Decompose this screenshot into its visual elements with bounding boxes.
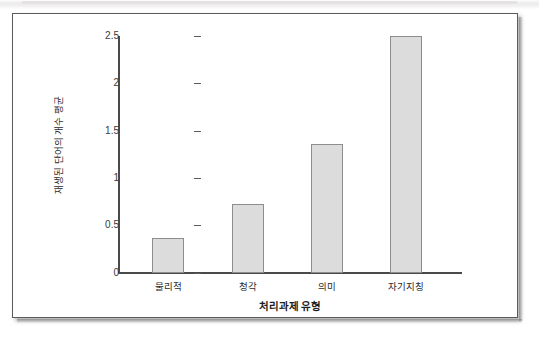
x-tick-label-3: 자기지칭 [366, 279, 446, 293]
y-axis-line [118, 36, 120, 274]
bar-1[interactable] [232, 204, 264, 273]
y-tick-0: 0 [82, 273, 119, 274]
y-tick-2: 1 [82, 178, 119, 179]
y-tick-label-3: 1.5 [93, 126, 119, 136]
y-axis-title: 재생된 단어의 개수 평균 [51, 65, 65, 225]
bar-3[interactable] [390, 36, 422, 273]
y-tick-4: 2 [82, 83, 119, 84]
x-tick-label-2: 의미 [287, 279, 367, 293]
bar-chart-plot: 0 0.5 1 1.5 2 2.5 재생된 단어의 개수 평균 물리적 청각 의… [0, 0, 539, 342]
y-tick-3: 1.5 [82, 131, 119, 132]
x-tick-label-1: 청각 [208, 279, 288, 293]
y-tick-5: 2.5 [82, 36, 119, 37]
y-tick-label-0: 0 [93, 268, 119, 278]
bar-0[interactable] [152, 238, 184, 273]
y-tick-label-1: 0.5 [93, 220, 119, 230]
y-tick-label-2: 1 [93, 173, 119, 183]
x-tick-label-0: 물리적 [128, 279, 208, 293]
y-tick-1: 0.5 [82, 225, 119, 226]
y-tick-label-4: 2 [93, 78, 119, 88]
y-tick-label-5: 2.5 [93, 31, 119, 41]
bar-2[interactable] [311, 144, 343, 273]
x-axis-title: 처리과제 유형 [118, 298, 462, 313]
